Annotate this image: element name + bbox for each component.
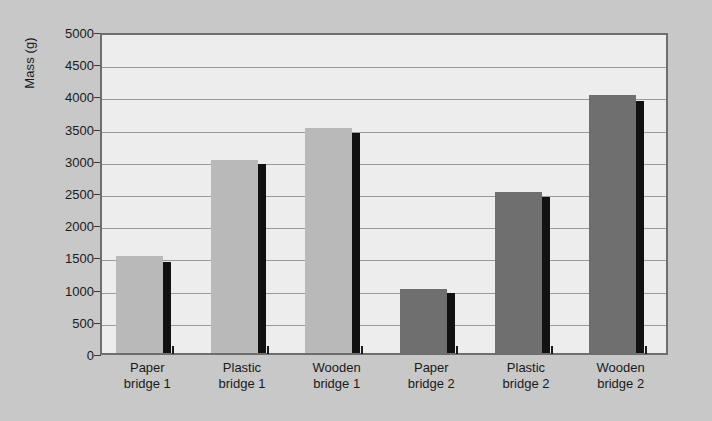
x-axis-category-wooden-bridge-1: Woodenbridge 1 [289, 360, 384, 392]
x-axis-tick-mark [551, 346, 553, 354]
y-axis-tick-label: 4500 [36, 58, 94, 73]
y-axis-tick-label: 4000 [36, 90, 94, 105]
bar-wooden-bridge-1 [305, 128, 352, 353]
x-axis-label-line: Plastic [195, 360, 290, 376]
x-axis-label-line: Paper [384, 360, 479, 376]
bar-chart: Mass (g) 5000450040003500300025002000150… [0, 0, 712, 421]
x-axis-tick-mark [645, 346, 647, 354]
y-axis-tick-label: 0 [36, 348, 94, 363]
x-axis-label-line: Wooden [289, 360, 384, 376]
y-axis-tick-label: 1000 [36, 283, 94, 298]
y-axis-tick-label: 5000 [36, 26, 94, 41]
marker-bar-wooden-bridge-2 [636, 101, 644, 353]
x-axis-label-line: bridge 1 [195, 376, 290, 392]
x-axis-label-line: Paper [100, 360, 195, 376]
x-axis-label-line: Wooden [573, 360, 668, 376]
marker-bar-plastic-bridge-1 [258, 164, 266, 353]
y-axis-tick-mark [94, 355, 101, 356]
marker-bar-paper-bridge-2 [447, 293, 455, 353]
marker-bar-wooden-bridge-1 [352, 133, 360, 353]
x-axis-category-plastic-bridge-1: Plasticbridge 1 [195, 360, 290, 392]
x-axis-category-paper-bridge-1: Paperbridge 1 [100, 360, 195, 392]
y-axis-tick-label: 3500 [36, 122, 94, 137]
x-axis-tick-mark [172, 346, 174, 354]
x-axis-label-line: bridge 2 [479, 376, 574, 392]
bar-paper-bridge-2 [400, 289, 447, 353]
x-axis-label-line: Plastic [479, 360, 574, 376]
x-axis-category-wooden-bridge-2: Woodenbridge 2 [573, 360, 668, 392]
bar-plastic-bridge-1 [211, 160, 258, 353]
bar-paper-bridge-1 [116, 256, 163, 353]
x-axis-tick-mark [267, 346, 269, 354]
x-axis-tick-mark [361, 346, 363, 354]
y-axis-tick-label: 2500 [36, 187, 94, 202]
x-axis-label-line: bridge 1 [289, 376, 384, 392]
marker-bar-paper-bridge-1 [163, 262, 171, 353]
marker-bar-plastic-bridge-2 [542, 197, 550, 353]
bar-plastic-bridge-2 [495, 192, 542, 353]
x-axis-label-line: bridge 2 [573, 376, 668, 392]
y-axis-tick-label: 3000 [36, 154, 94, 169]
x-axis-label-line: bridge 1 [100, 376, 195, 392]
x-axis-category-labels: Paperbridge 1Plasticbridge 1Woodenbridge… [100, 360, 668, 410]
y-axis-tick-label: 2000 [36, 219, 94, 234]
bar-wooden-bridge-2 [589, 95, 636, 353]
x-axis-label-line: bridge 2 [384, 376, 479, 392]
plot-area [100, 33, 668, 355]
y-axis-tick-label: 500 [36, 315, 94, 330]
x-axis-category-paper-bridge-2: Paperbridge 2 [384, 360, 479, 392]
y-axis-tick-label: 1500 [36, 251, 94, 266]
x-axis-tick-mark [456, 346, 458, 354]
bar-series-container [102, 35, 666, 353]
y-axis-tick-labels: 5000450040003500300025002000150010005000 [34, 33, 94, 355]
x-axis-category-plastic-bridge-2: Plasticbridge 2 [479, 360, 574, 392]
